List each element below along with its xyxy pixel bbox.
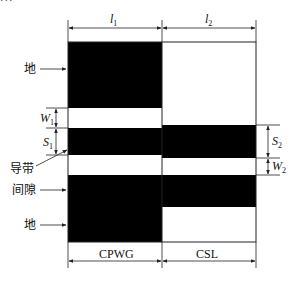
cpwg-csl-diagram: ... [0,0,298,282]
section-label-csl: CSL [196,248,218,260]
top-ground-cpwg [68,42,162,108]
dim-s2-subscript: 2 [278,141,282,150]
signal-strip-cpwg [68,128,162,155]
dim-label-l2: l2 [205,13,212,30]
callout-gap: 间隙 [12,184,36,196]
callout-conductor-strip: 导带 [10,163,34,175]
dim-w1-subscript: 1 [50,118,54,127]
bottom-dimensions [68,242,256,268]
callout-ground-bottom: 地 [24,219,36,231]
dim-w1-symbol: W [40,111,50,125]
top-dimensions [68,20,256,42]
callout-ground-top: 地 [24,63,36,75]
section-label-cpwg: CPWG [99,248,134,260]
bottom-ground-csl [162,175,256,207]
dim-label-s2: S2 [272,135,282,152]
bottom-ground-cpwg [68,175,162,242]
dim-l2-subscript: 2 [208,19,212,28]
dim-label-l1: l1 [110,13,117,30]
dim-label-w2: W2 [272,160,286,177]
signal-strip-csl [162,125,256,158]
dim-l1-subscript: 1 [113,19,117,28]
dim-w2-symbol: W [272,159,282,173]
dim-w2-subscript: 2 [282,166,286,175]
dim-label-w1: W1 [40,112,54,129]
dim-s1-subscript: 1 [49,142,53,151]
dim-label-s1: S1 [43,136,53,153]
